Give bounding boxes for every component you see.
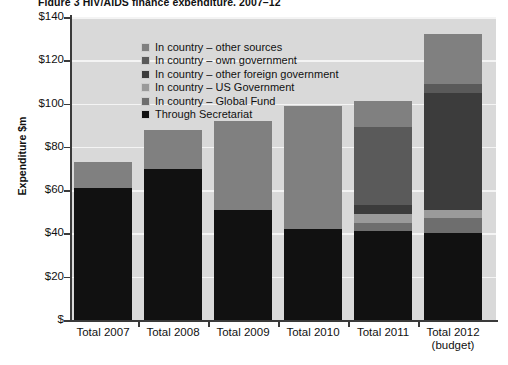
y-axis-tick xyxy=(64,147,71,149)
chart-legend: In country – other sourcesIn country – o… xyxy=(141,42,338,120)
bar-segment[interactable] xyxy=(424,210,482,219)
legend-item-label: Through Secretariat xyxy=(155,109,252,120)
y-axis-tick-label: $60 xyxy=(8,183,64,195)
bar-segment[interactable] xyxy=(424,233,482,320)
bar-stack[interactable] xyxy=(144,130,202,320)
bar-segment[interactable] xyxy=(144,169,202,321)
bar-segment[interactable] xyxy=(354,101,412,127)
bar-segment[interactable] xyxy=(214,210,272,320)
bar-segment[interactable] xyxy=(354,223,412,232)
legend-item-label: In country – own government xyxy=(155,55,297,66)
figure-title: Figure 3 HIV/AIDS finance expenditure, 2… xyxy=(38,0,281,6)
legend-item[interactable]: Through Secretariat xyxy=(141,109,338,120)
legend-item-label: In country – US Government xyxy=(155,82,294,93)
y-axis-tick xyxy=(64,233,71,235)
legend-item-label: In country – Global Fund xyxy=(155,96,275,107)
y-axis-tick-label: $100 xyxy=(8,97,64,109)
bar-segment[interactable] xyxy=(424,93,482,210)
bar-segment[interactable] xyxy=(354,231,412,320)
chart-plot-area: In country – other sourcesIn country – o… xyxy=(72,17,496,320)
legend-swatch-icon xyxy=(141,83,150,92)
bar-segment[interactable] xyxy=(144,130,202,169)
y-axis-tick-label: $20 xyxy=(8,270,64,282)
legend-swatch-icon xyxy=(141,97,150,106)
y-axis-tick-label: $ xyxy=(8,313,64,325)
bar-segment[interactable] xyxy=(354,205,412,214)
legend-item-label: In country – other foreign government xyxy=(155,69,338,80)
bar-stack[interactable] xyxy=(424,34,482,320)
bar-segment[interactable] xyxy=(354,127,412,205)
bar-segment[interactable] xyxy=(424,218,482,233)
bar-stack[interactable] xyxy=(284,106,342,320)
bar-segment[interactable] xyxy=(74,188,132,320)
legend-swatch-icon xyxy=(141,110,150,119)
legend-item[interactable]: In country – Global Fund xyxy=(141,96,338,107)
y-axis-tick xyxy=(64,60,71,62)
legend-swatch-icon xyxy=(141,43,150,52)
bar-segment[interactable] xyxy=(284,229,342,320)
y-axis-tick xyxy=(64,277,71,279)
x-axis-line xyxy=(70,320,498,322)
bar-stack[interactable] xyxy=(74,162,132,320)
bar-stack[interactable] xyxy=(354,101,412,320)
y-axis-tick-label: $40 xyxy=(8,226,64,238)
y-axis-tick xyxy=(64,104,71,106)
y-axis-tick-label: $140 xyxy=(8,10,64,22)
bar-segment[interactable] xyxy=(354,214,412,223)
y-axis-tick-label: $80 xyxy=(8,140,64,152)
legend-item[interactable]: In country – other foreign government xyxy=(141,69,338,80)
x-axis-tick-label: Total 2012(budget) xyxy=(410,326,496,351)
y-axis-tick xyxy=(64,17,71,19)
legend-swatch-icon xyxy=(141,56,150,65)
bar-segment[interactable] xyxy=(214,121,272,210)
legend-swatch-icon xyxy=(141,70,150,79)
bar-segment[interactable] xyxy=(284,106,342,229)
gridline xyxy=(72,17,496,19)
legend-item[interactable]: In country – own government xyxy=(141,55,338,66)
bar-segment[interactable] xyxy=(74,162,132,188)
y-axis-tick xyxy=(64,190,71,192)
bar-stack[interactable] xyxy=(214,121,272,320)
bar-segment[interactable] xyxy=(424,84,482,93)
bar-segment[interactable] xyxy=(424,34,482,84)
y-axis-tick-label: $120 xyxy=(8,53,64,65)
y-axis-tick xyxy=(64,320,71,322)
legend-item-label: In country – other sources xyxy=(155,42,282,53)
legend-item[interactable]: In country – US Government xyxy=(141,82,338,93)
legend-item[interactable]: In country – other sources xyxy=(141,42,338,53)
